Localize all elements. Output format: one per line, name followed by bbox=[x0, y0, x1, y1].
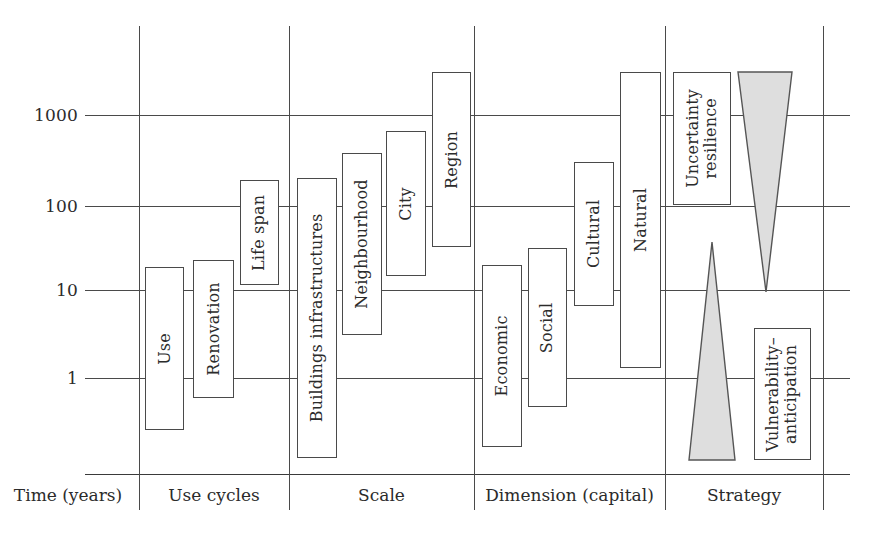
range-box-use: Use bbox=[145, 267, 184, 430]
range-box-natural: Natural bbox=[620, 72, 661, 368]
range-box-neighbourhood: Neighbourhood bbox=[342, 153, 382, 335]
range-box-uncertainty-resilience: Uncertainty resilience bbox=[673, 72, 731, 205]
range-box-label: Neighbourhood bbox=[353, 179, 371, 308]
ytick-label-100: 100 bbox=[0, 198, 78, 215]
range-box-label: Vulnerability– anticipation bbox=[764, 337, 801, 452]
diagram-canvas: 1000 100 10 1 Use Renovation Life span B… bbox=[0, 0, 884, 543]
range-box-economic: Economic bbox=[482, 265, 522, 447]
range-box-label: Renovation bbox=[205, 282, 223, 376]
range-box-label: Life span bbox=[251, 194, 269, 270]
range-box-label: Economic bbox=[493, 315, 511, 396]
divider-strategy-right bbox=[823, 26, 824, 510]
category-baseline bbox=[85, 474, 850, 475]
range-box-label: Buildings infrastructures bbox=[308, 214, 326, 423]
range-box-label: Natural bbox=[632, 188, 650, 252]
divider-time-usecycles bbox=[139, 26, 140, 510]
range-box-label: Uncertainty resilience bbox=[684, 89, 721, 188]
category-label-strategy: Strategy bbox=[667, 487, 821, 504]
range-box-vulnerability-anticipation: Vulnerability– anticipation bbox=[754, 328, 811, 460]
range-box-label: Use bbox=[156, 333, 174, 365]
range-box-label: Cultural bbox=[585, 200, 603, 268]
category-label-dimension: Dimension (capital) bbox=[476, 487, 663, 504]
range-box-life-span: Life span bbox=[240, 180, 279, 285]
range-box-city: City bbox=[386, 131, 426, 276]
ytick-label-1000: 1000 bbox=[0, 107, 78, 124]
category-label-time: Time (years) bbox=[0, 487, 136, 504]
category-label-scale: Scale bbox=[291, 487, 472, 504]
category-label-use-cycles: Use cycles bbox=[141, 487, 287, 504]
ytick-label-10: 10 bbox=[0, 282, 78, 299]
range-box-cultural: Cultural bbox=[574, 162, 614, 306]
range-box-label: Social bbox=[539, 302, 557, 353]
divider-dimension-strategy bbox=[665, 26, 666, 510]
vulnerability-anticipation-triangle bbox=[688, 242, 736, 460]
range-box-region: Region bbox=[432, 72, 471, 247]
divider-scale-dimension bbox=[474, 26, 475, 510]
range-box-label: City bbox=[397, 187, 415, 221]
range-box-renovation: Renovation bbox=[193, 260, 234, 398]
ytick-label-1: 1 bbox=[0, 370, 78, 387]
range-box-buildings-infrastructures: Buildings infrastructures bbox=[297, 178, 337, 458]
uncertainty-resilience-triangle bbox=[738, 72, 792, 292]
range-box-label: Region bbox=[443, 130, 461, 188]
range-box-social: Social bbox=[528, 248, 567, 407]
divider-usecycles-scale bbox=[289, 26, 290, 510]
